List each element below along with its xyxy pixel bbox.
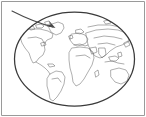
landmass-southeast-asia: [109, 56, 119, 61]
landmass-south-america-inner: [52, 78, 61, 82]
landmass-madagascar: [95, 70, 99, 77]
landmass-africa-inner: [76, 55, 90, 58]
landmass-arabia: [90, 47, 97, 54]
landmass-africa: [69, 47, 94, 86]
map-landmasses: [20, 20, 137, 101]
landmass-asia-inner-2: [98, 43, 115, 45]
pointer-arrow-annotation: [12, 11, 56, 28]
landmass-british-isles: [69, 35, 73, 39]
figure-border: [2, 2, 145, 116]
landmass-south-america: [47, 71, 65, 101]
landmass-north-america-inner: [28, 37, 44, 43]
world-map-canvas: [0, 0, 146, 117]
landmass-north-america: [20, 29, 53, 63]
landmass-philippines: [118, 52, 122, 57]
landmass-caribbean: [48, 64, 55, 67]
landmass-australia: [111, 68, 129, 84]
landmass-asia-inner-1: [94, 36, 122, 39]
world-map-figure: World map inside ellipse with pointer an…: [0, 0, 146, 117]
landmass-great-lakes: [41, 42, 46, 46]
landmass-japan: [124, 41, 130, 47]
globe-ellipse-outline: [15, 12, 135, 106]
landmass-indonesia: [105, 61, 124, 64]
landmass-india: [99, 48, 106, 58]
landmass-new-zealand: [133, 83, 137, 88]
